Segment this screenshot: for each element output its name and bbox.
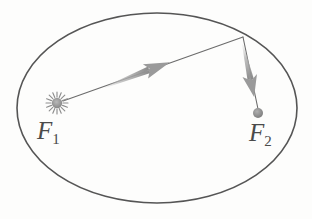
focus-label-f2: F2 xyxy=(249,120,272,145)
focus-label-f2-letter: F xyxy=(249,119,264,146)
focus-label-f1-subscript: 1 xyxy=(52,131,60,147)
focus-label-f1: F1 xyxy=(37,118,60,143)
empty-focus-dot-icon xyxy=(253,108,263,118)
focus-label-f2-subscript: 2 xyxy=(264,133,272,149)
outbound-radius-arrow xyxy=(102,55,173,93)
sun-icon xyxy=(46,92,68,114)
orbital-ellipse-figure: F1 F2 xyxy=(0,0,312,219)
focus-label-f1-letter: F xyxy=(37,117,52,144)
inbound-radius-arrow xyxy=(236,43,261,99)
figure-canvas xyxy=(0,0,312,219)
